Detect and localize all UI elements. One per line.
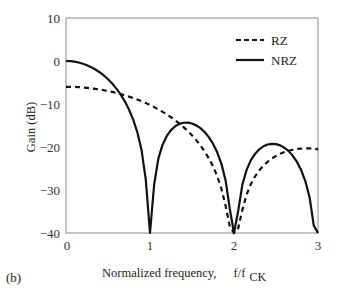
x-axis-ticks: 0 1 2 3 — [64, 238, 322, 253]
y-tick-label: −10 — [40, 97, 60, 112]
x-tick-label: 3 — [315, 238, 322, 253]
plot-area — [66, 61, 318, 233]
y-tick-label: −30 — [40, 183, 60, 198]
x-tick-label: 0 — [64, 238, 71, 253]
plot-frame — [66, 18, 318, 233]
x-axis-unit-subscript: CK — [249, 270, 266, 284]
x-axis-title-text: Normalized frequency, — [102, 266, 216, 280]
x-tick-label: 1 — [147, 238, 154, 253]
rz-curve — [66, 87, 318, 233]
y-axis-title: Gain (dB) — [24, 102, 38, 152]
nrz-curve — [66, 61, 318, 233]
y-tick-label: 0 — [54, 54, 61, 69]
legend-rz-label: RZ — [271, 33, 288, 48]
panel-label: (b) — [6, 270, 21, 285]
legend-nrz-label: NRZ — [271, 53, 297, 68]
y-tick-label: −40 — [40, 226, 60, 241]
y-axis-ticks: 10 0 −10 −20 −30 −40 — [40, 11, 60, 241]
y-tick-label: −20 — [40, 140, 60, 155]
x-axis-title: Normalized frequency, f/f CK — [102, 266, 266, 284]
x-tick-label: 2 — [231, 238, 238, 253]
legend: RZ NRZ — [236, 33, 297, 68]
gain-vs-frequency-chart: 10 0 −10 −20 −30 −40 0 1 2 3 Gain (dB) N… — [0, 0, 338, 298]
x-axis-unit: f/f — [234, 266, 247, 280]
y-tick-label: 10 — [47, 11, 60, 26]
